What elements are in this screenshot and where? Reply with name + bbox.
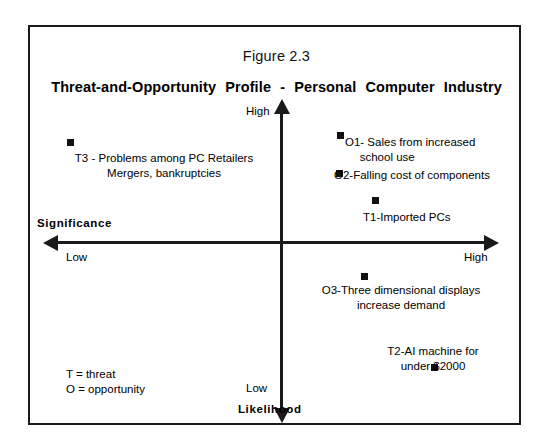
data-label-t1-line1: T1-Imported PCs: [363, 210, 451, 225]
data-label-o1-line2: school use: [345, 150, 475, 165]
data-label-t2-line2: under $2000: [358, 359, 508, 374]
data-label-o1: O1- Sales from increased school use: [345, 135, 475, 164]
data-label-o2-line1: O2-Falling cost of components: [334, 168, 490, 183]
data-label-t3-line1: T3 - Problems among PC Retailers: [60, 151, 268, 166]
y-axis-line: [280, 113, 283, 411]
page-title: Threat-and-Opportunity Profile - Persona…: [30, 79, 523, 95]
data-point-o1[interactable]: [337, 132, 344, 139]
data-point-o3[interactable]: [361, 273, 368, 280]
figure-frame: Figure 2.3 Threat-and-Opportunity Profil…: [28, 25, 521, 425]
data-label-o1-line1: O1- Sales from increased: [345, 135, 475, 150]
data-label-t3: T3 - Problems among PC Retailers Mergers…: [60, 151, 268, 180]
figure-page: Figure 2.3 Threat-and-Opportunity Profil…: [0, 0, 541, 443]
legend: T = threat O = opportunity: [66, 367, 145, 397]
data-label-o3: O3-Three dimensional displays increase d…: [304, 283, 498, 312]
data-point-t3[interactable]: [67, 139, 74, 146]
x-axis-line: [58, 241, 486, 244]
data-label-t2-line1: T2-AI machine for: [358, 344, 508, 359]
arrow-right-icon: [484, 235, 499, 251]
data-label-t3-line2: Mergers, bankruptcies: [60, 166, 268, 181]
arrow-left-icon: [43, 235, 58, 251]
arrow-up-icon: [274, 99, 290, 114]
data-label-t2: T2-AI machine for under $2000: [358, 344, 508, 373]
x-axis-title: Significance: [37, 217, 112, 230]
y-axis-title: Likelihood: [238, 403, 302, 416]
y-axis-low-label: Low: [246, 382, 267, 395]
figure-number: Figure 2.3: [30, 48, 523, 64]
data-label-o3-line2: increase demand: [304, 298, 498, 313]
legend-opportunity: O = opportunity: [66, 382, 145, 397]
x-axis-high-label: High: [464, 251, 488, 264]
data-label-o2: O2-Falling cost of components: [334, 168, 490, 183]
x-axis-low-label: Low: [66, 251, 87, 264]
data-label-o3-line1: O3-Three dimensional displays: [304, 283, 498, 298]
legend-threat: T = threat: [66, 367, 145, 382]
y-axis-high-label: High: [246, 105, 270, 118]
data-label-t1: T1-Imported PCs: [363, 210, 451, 225]
data-point-t1[interactable]: [372, 197, 379, 204]
